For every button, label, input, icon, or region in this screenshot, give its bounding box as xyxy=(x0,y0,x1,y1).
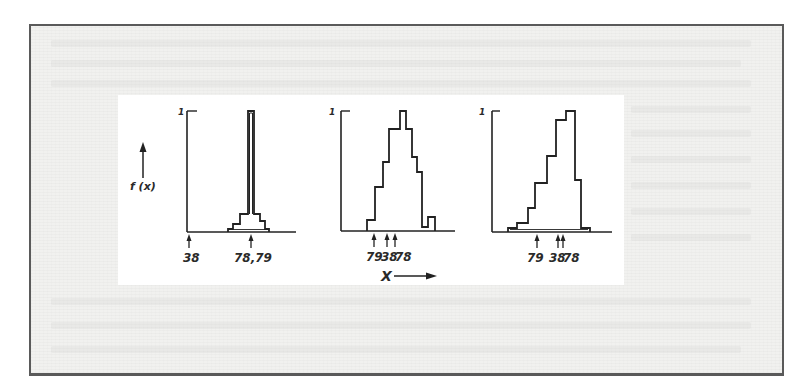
y-tick-label: 1 xyxy=(178,107,184,117)
histogram-panel-3: 1 79 38 78 xyxy=(479,107,612,265)
x-axis-arrow-icon xyxy=(394,273,437,280)
marker-label: 78,79 xyxy=(234,251,272,265)
marker-arrow-icon xyxy=(556,234,561,248)
page: f (x) 1 38 78,79 1 xyxy=(0,0,802,389)
x-axis-label: X xyxy=(380,268,393,284)
histogram-figure: f (x) 1 38 78,79 1 xyxy=(0,0,802,389)
y-axis-arrow-icon xyxy=(140,142,147,178)
marker-label: 78 xyxy=(563,251,580,265)
marker-arrow-icon xyxy=(385,233,390,247)
marker-arrow-icon xyxy=(561,234,566,248)
y-tick-label: 1 xyxy=(479,107,485,117)
histogram-panel-2: 1 79 38 78 X xyxy=(329,107,455,284)
histogram-panel-1: 1 38 78,79 xyxy=(178,107,296,265)
marker-arrow-icon xyxy=(535,234,540,248)
y-axis-label: f (x) xyxy=(130,180,156,193)
marker-arrow-icon xyxy=(249,234,254,248)
marker-label: 38 xyxy=(183,251,200,265)
marker-arrow-icon xyxy=(372,233,377,247)
y-tick-label: 1 xyxy=(329,107,335,117)
marker-label: 78 xyxy=(395,250,412,264)
marker-label: 79 xyxy=(527,251,544,265)
marker-arrow-icon xyxy=(187,234,192,248)
marker-arrow-icon xyxy=(393,233,398,247)
